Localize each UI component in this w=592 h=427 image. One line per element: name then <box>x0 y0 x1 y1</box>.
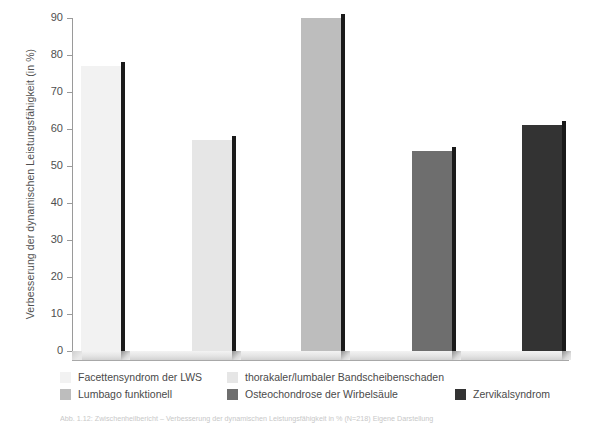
y-tick-label-10: 10 <box>51 307 63 319</box>
y-tick-60: 60 <box>67 129 72 130</box>
bar-1 <box>81 66 121 351</box>
bar-shadow-4 <box>452 351 461 360</box>
legend-label: thorakaler/lumbaler Bandscheibenschaden <box>245 371 444 384</box>
legend-item[interactable]: thorakaler/lumbaler Bandscheibenschaden <box>227 369 444 386</box>
bar-side-2 <box>232 136 236 351</box>
legend-swatch-icon <box>60 389 71 400</box>
y-tick-90: 90 <box>67 18 72 19</box>
legend-label: Zervikalsyndrom <box>473 388 550 401</box>
legend-swatch-icon <box>455 389 466 400</box>
legend-item[interactable]: Facettensyndrom der LWS <box>60 369 202 386</box>
bar-face-5 <box>522 125 562 351</box>
bar-3 <box>301 18 341 351</box>
plot-area: 0102030405060708090 <box>72 18 569 360</box>
y-tick-label-70: 70 <box>51 85 63 97</box>
y-tick-30: 30 <box>67 240 72 241</box>
legend-row-1: Facettensyndrom der LWSthorakaler/lumbal… <box>60 369 585 386</box>
bar-5 <box>522 125 562 351</box>
y-tick-50: 50 <box>67 166 72 167</box>
y-tick-label-90: 90 <box>51 11 63 23</box>
bar-face-3 <box>301 18 341 351</box>
y-axis-title: Verbesserung der dynamischen Leistungsfä… <box>24 19 36 349</box>
y-tick-label-40: 40 <box>51 196 63 208</box>
y-tick-20: 20 <box>67 277 72 278</box>
bar-side-3 <box>341 14 345 351</box>
bar-shadow-3 <box>341 351 350 360</box>
y-tick-80: 80 <box>67 55 72 56</box>
bar-4 <box>412 151 452 351</box>
bar-shadow-2 <box>232 351 241 360</box>
bar-chart-figure: Verbesserung der dynamischen Leistungsfä… <box>0 0 592 427</box>
y-tick-label-50: 50 <box>51 159 63 171</box>
y-tick-label-60: 60 <box>51 122 63 134</box>
legend-label: Lumbago funktionell <box>78 388 172 401</box>
y-tick-40: 40 <box>67 203 72 204</box>
legend-item[interactable]: Zervikalsyndrom <box>455 386 550 403</box>
chart-floor <box>72 351 569 360</box>
bar-face-2 <box>192 140 232 351</box>
bar-shadow-5 <box>562 351 571 360</box>
y-tick-label-30: 30 <box>51 233 63 245</box>
bar-face-1 <box>81 66 121 351</box>
y-tick-70: 70 <box>67 92 72 93</box>
legend-swatch-icon <box>227 389 238 400</box>
y-tick-label-0: 0 <box>57 344 63 356</box>
legend-item[interactable]: Lumbago funktionell <box>60 386 172 403</box>
legend-label: Facettensyndrom der LWS <box>78 371 202 384</box>
legend-row-2: Lumbago funktionellOsteochondrose der Wi… <box>60 386 585 403</box>
y-axis-line <box>72 18 73 360</box>
bar-side-4 <box>452 147 456 351</box>
figure-caption: Abb. 1.12: Zwischenheilbericht – Verbess… <box>60 414 585 424</box>
legend-swatch-icon <box>60 372 71 383</box>
bar-face-4 <box>412 151 452 351</box>
y-tick-label-20: 20 <box>51 270 63 282</box>
bar-side-5 <box>562 121 566 351</box>
legend-item[interactable]: Osteochondrose der Wirbelsäule <box>227 386 398 403</box>
chart-legend: Facettensyndrom der LWSthorakaler/lumbal… <box>60 369 585 403</box>
chart-baseline <box>72 360 569 361</box>
legend-swatch-icon <box>227 372 238 383</box>
bar-2 <box>192 140 232 351</box>
bar-shadow-1 <box>121 351 130 360</box>
bar-side-1 <box>121 62 125 351</box>
legend-label: Osteochondrose der Wirbelsäule <box>245 388 398 401</box>
y-tick-label-80: 80 <box>51 48 63 60</box>
y-tick-10: 10 <box>67 314 72 315</box>
chart-floor-bevel <box>72 351 82 360</box>
